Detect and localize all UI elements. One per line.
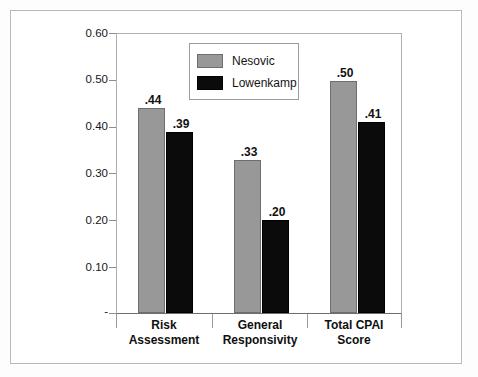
bar-lowenkamp-general-responsivity[interactable]: .20 [262,220,289,313]
bar-lowenkamp-risk-assessment[interactable]: .39 [166,132,193,313]
bar-nesovic-general-responsivity[interactable]: .33 [234,160,261,313]
bar-nesovic-risk-assessment[interactable]: .44 [138,108,165,313]
legend-item-nesovic[interactable]: Nesovic [197,50,292,72]
category-label-line: Total CPAI [294,318,414,333]
legend-swatch-icon [197,76,223,90]
bar-value-label: .33 [228,145,270,161]
bar-value-label: .41 [352,107,394,123]
y-tick-label: 0.50 [52,73,108,85]
y-tick-label: 0.40 [52,120,108,132]
y-tick-label: 0.10 [52,261,108,273]
y-tick-label: 0.20 [52,214,108,226]
bar-value-label: .20 [256,205,298,221]
bar-lowenkamp-total-cpai-score[interactable]: .41 [358,122,385,313]
bar-value-label: .50 [324,66,366,82]
category-label-line: Score [294,333,414,348]
y-tick-label: - [52,305,108,317]
legend: Nesovic Lowenkamp [189,43,299,100]
category-label-total-cpai-score: Total CPAI Score [294,318,414,348]
bar-value-label: .44 [132,93,174,109]
figure: 0.60 0.50 0.40 0.30 0.20 0.10 - .44 .39 … [0,0,478,377]
y-tick-label: 0.60 [52,27,108,39]
legend-label: Nesovic [232,54,275,68]
legend-label: Lowenkamp [232,76,297,90]
legend-item-lowenkamp[interactable]: Lowenkamp [197,72,292,94]
legend-swatch-icon [197,54,223,68]
bar-value-label: .39 [160,117,202,133]
y-tick-label: 0.30 [52,167,108,179]
plot-area: .44 .39 .33 .20 .50 .41 Nesovic Lowen [116,33,402,314]
